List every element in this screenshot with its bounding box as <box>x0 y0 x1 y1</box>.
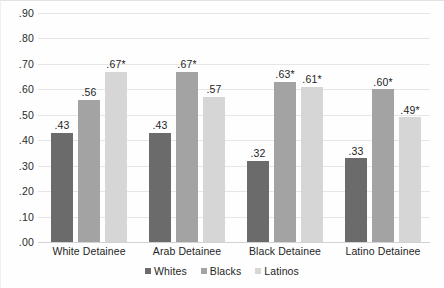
x-axis-tick-label: Black Detainee <box>235 245 335 258</box>
bar-value-label: .49* <box>400 105 419 116</box>
y-axis-tick-label: .50 <box>4 110 34 121</box>
bar[interactable]: .49* <box>399 117 421 242</box>
legend-swatch-icon <box>255 268 261 274</box>
legend-label: Latinos <box>264 266 299 277</box>
bar-value-label: .43 <box>152 120 167 131</box>
bar-value-label: .63* <box>275 69 294 80</box>
legend-item[interactable]: Whites <box>145 266 187 277</box>
bar[interactable]: .43 <box>51 133 73 242</box>
bar[interactable]: .61* <box>301 87 323 242</box>
legend-item[interactable]: Blacks <box>201 266 242 277</box>
bar-value-label: .61* <box>302 74 321 85</box>
bar-group: .33.60*.49* <box>345 13 421 242</box>
bar[interactable]: .63* <box>274 82 296 242</box>
y-axis-tick-label: .60 <box>4 84 34 95</box>
bar[interactable]: .43 <box>149 133 171 242</box>
legend-swatch-icon <box>145 268 151 274</box>
bar[interactable]: .57 <box>203 97 225 242</box>
bar-value-label: .60* <box>373 77 392 88</box>
bar-group: .32.63*.61* <box>247 13 323 242</box>
bar[interactable]: .33 <box>345 158 367 242</box>
y-axis-tick-label: .00 <box>4 237 34 248</box>
x-axis: White DetaineeArab DetaineeBlack Detaine… <box>38 245 430 261</box>
bar-value-label: .32 <box>250 148 265 159</box>
y-axis-tick-label: .30 <box>4 161 34 172</box>
x-axis-tick-label: Arab Detainee <box>137 245 237 258</box>
bar-value-label: .56 <box>81 87 96 98</box>
y-axis-tick-label: .80 <box>4 33 34 44</box>
chart-legend: WhitesBlacksLatinos <box>0 266 444 277</box>
bar[interactable]: .32 <box>247 161 269 242</box>
legend-item[interactable]: Latinos <box>255 266 299 277</box>
gridline <box>38 242 430 243</box>
y-axis: .90.80.70.60.50.40.30.20.10.00 <box>0 13 34 242</box>
y-axis-tick-label: .70 <box>4 59 34 70</box>
bar-groups: .43.56.67*.43.67*.57.32.63*.61*.33.60*.4… <box>38 13 430 242</box>
bar-value-label: .33 <box>348 146 363 157</box>
bar[interactable]: .60* <box>372 89 394 242</box>
y-axis-tick-label: .40 <box>4 135 34 146</box>
bar[interactable]: .67* <box>176 72 198 242</box>
bar-chart-figure: .90.80.70.60.50.40.30.20.10.00 .43.56.67… <box>0 0 444 288</box>
x-axis-tick-label: Latino Detainee <box>333 245 433 258</box>
bar-group: .43.56.67* <box>51 13 127 242</box>
y-axis-tick-label: .20 <box>4 186 34 197</box>
y-axis-tick-label: .10 <box>4 212 34 223</box>
legend-swatch-icon <box>201 268 207 274</box>
bar-value-label: .57 <box>206 84 221 95</box>
x-axis-tick-label: White Detainee <box>39 245 139 258</box>
bar-value-label: .67* <box>177 59 196 70</box>
legend-label: Whites <box>154 266 187 277</box>
bar-group: .43.67*.57 <box>149 13 225 242</box>
bar-value-label: .43 <box>54 120 69 131</box>
bar[interactable]: .56 <box>78 100 100 242</box>
bar-value-label: .67* <box>106 59 125 70</box>
legend-label: Blacks <box>210 266 242 277</box>
bar[interactable]: .67* <box>105 72 127 242</box>
y-axis-tick-label: .90 <box>4 8 34 19</box>
